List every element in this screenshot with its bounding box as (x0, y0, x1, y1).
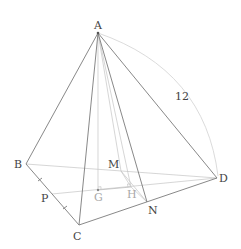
label-g: G (94, 191, 103, 204)
edge-bc (26, 164, 79, 225)
label-h: H (127, 188, 137, 201)
label-n: N (148, 204, 158, 217)
pyramid-diagram: A B C D N M G H P 12 (0, 0, 241, 249)
label-p: P (41, 192, 49, 205)
label-c: C (73, 230, 81, 243)
label-d: D (219, 172, 228, 185)
point-a (97, 32, 100, 35)
label-b: B (14, 158, 22, 171)
label-length-12: 12 (175, 90, 189, 103)
label-m: M (108, 158, 119, 171)
edge-ad (98, 33, 217, 178)
edge-bd-hidden (26, 164, 217, 178)
edge-an (98, 33, 147, 202)
label-a: A (93, 19, 103, 32)
